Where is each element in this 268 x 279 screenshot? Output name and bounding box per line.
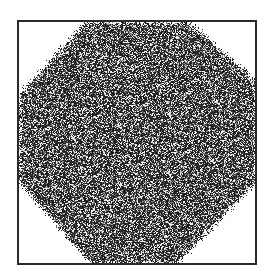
image-frame (17, 20, 257, 265)
speckle-pattern-octagon (19, 22, 255, 263)
